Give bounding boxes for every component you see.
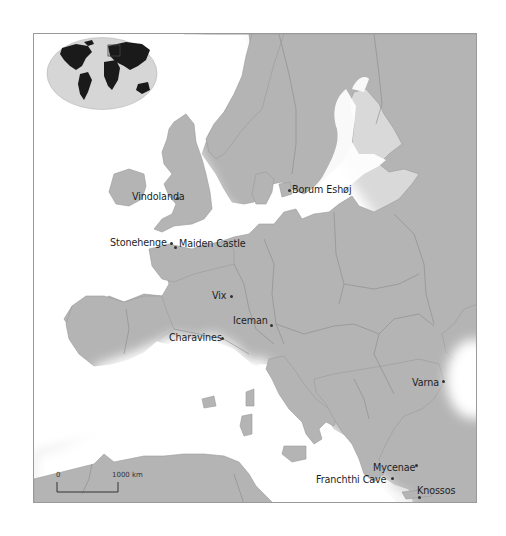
world-locator-inset: [46, 36, 158, 111]
site-marker-mycenae[interactable]: [415, 464, 418, 467]
site-label-stonehenge: Stonehenge: [110, 237, 167, 248]
site-marker-varna[interactable]: [442, 380, 445, 383]
site-marker-vix[interactable]: [230, 295, 233, 298]
scale-start-label: 0: [56, 471, 60, 479]
site-marker-iceman[interactable]: [270, 324, 273, 327]
scale-ruler: [56, 480, 136, 496]
site-marker-vindolanda[interactable]: [176, 197, 179, 200]
site-marker-charavines[interactable]: [221, 337, 224, 340]
scale-end-label: 1000 km: [112, 471, 143, 479]
site-label-franchthi-cave: Franchthi Cave: [316, 474, 386, 485]
site-label-iceman: Iceman: [233, 315, 268, 326]
site-marker-knossos[interactable]: [418, 496, 421, 499]
map-frame: Vindolanda Stonehenge Maiden Castle Boru…: [33, 33, 477, 503]
site-label-borum-eshoj: Borum Eshøj: [292, 184, 351, 195]
site-marker-stonehenge[interactable]: [170, 242, 173, 245]
site-marker-maiden-castle[interactable]: [174, 246, 177, 249]
site-label-knossos: Knossos: [417, 485, 455, 496]
site-label-varna: Varna: [412, 377, 439, 388]
site-marker-franchthi-cave[interactable]: [391, 477, 394, 480]
site-label-mycenae: Mycenae: [373, 462, 415, 473]
site-marker-borum-eshoj[interactable]: [288, 189, 291, 192]
site-label-vix: Vix: [212, 290, 226, 301]
site-label-charavines: Charavines: [169, 332, 222, 343]
site-label-maiden-castle: Maiden Castle: [179, 238, 246, 249]
